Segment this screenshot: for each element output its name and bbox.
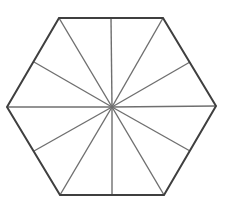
spoke-to-vertex-3 — [112, 107, 164, 195]
spoke-to-midpoint-0 — [111, 18, 112, 107]
spoke-to-vertex-0 — [59, 18, 112, 107]
spoke-to-vertex-2 — [112, 106, 216, 107]
spokes-group — [7, 18, 216, 195]
spoke-to-midpoint-1 — [112, 62, 190, 107]
spoke-to-midpoint-5 — [34, 62, 112, 107]
spoke-to-vertex-1 — [112, 18, 163, 107]
hexagon-diagram — [0, 0, 234, 200]
spoke-to-midpoint-4 — [34, 107, 112, 151]
spoke-to-vertex-4 — [60, 107, 112, 195]
spoke-to-midpoint-2 — [112, 107, 190, 151]
